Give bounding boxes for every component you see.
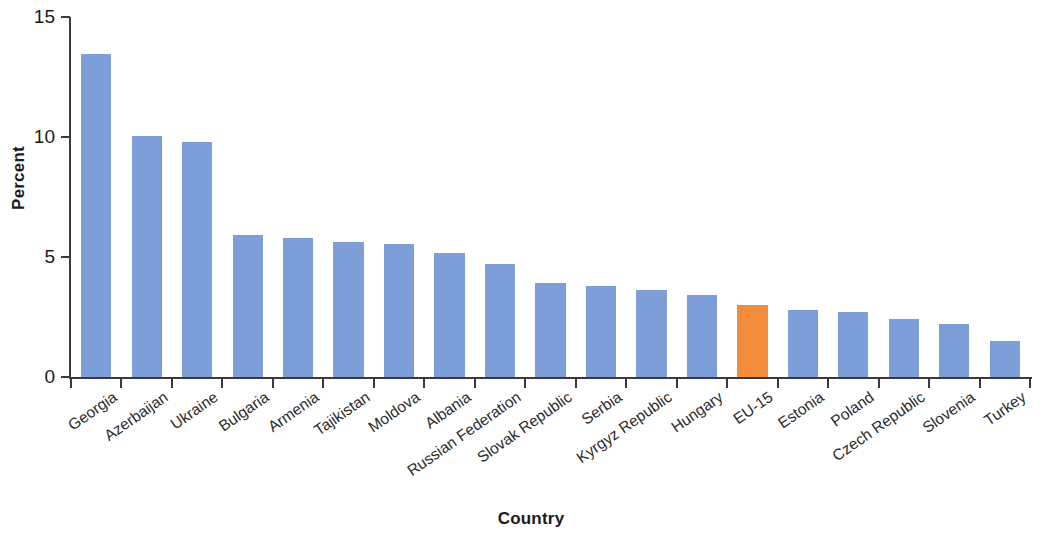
category-label-text: Turkey <box>980 388 1029 430</box>
x-axis-tick <box>120 379 122 388</box>
x-axis-tick <box>423 379 425 388</box>
x-axis-category-label: Hungary <box>668 388 726 436</box>
bar-chart: Percent 051015 GeorgiaAzerbaijanUkraineB… <box>0 0 1062 535</box>
category-label-text: Hungary <box>668 388 726 436</box>
category-label-text: Bulgaria <box>215 388 272 435</box>
x-axis-category-label: Czech Republic <box>829 388 928 465</box>
x-axis-title: Country <box>0 509 1062 529</box>
x-axis-category-label: Turkey <box>980 388 1029 430</box>
bar <box>233 235 263 378</box>
x-axis-tick <box>221 379 223 388</box>
x-axis-tick <box>575 379 577 388</box>
x-axis-tick <box>171 379 173 388</box>
bar <box>687 295 717 378</box>
x-axis-tick <box>373 379 375 388</box>
bar <box>838 312 868 378</box>
bar <box>283 238 313 378</box>
y-axis-tick-label: 0 <box>0 367 55 386</box>
y-axis-line <box>69 17 71 378</box>
x-axis-line <box>69 377 1032 379</box>
x-axis-category-label: Moldova <box>365 388 423 436</box>
x-axis-category-label: Ukraine <box>167 388 221 433</box>
y-axis-title: Percent <box>9 133 29 223</box>
y-axis-tick-label: 10 <box>0 127 55 146</box>
category-label-text: EU-15 <box>730 388 776 428</box>
x-axis-tick <box>322 379 324 388</box>
x-axis-category-label: Tajikistan <box>310 388 373 439</box>
x-axis-tick <box>979 379 981 388</box>
x-axis-tick <box>272 379 274 388</box>
bar <box>81 54 111 378</box>
y-axis-tick-label: 5 <box>0 247 55 266</box>
bar <box>788 310 818 378</box>
bar <box>535 283 565 378</box>
x-axis-tick <box>676 379 678 388</box>
category-label-text: Slovenia <box>920 388 979 437</box>
x-axis-tick <box>827 379 829 388</box>
x-axis-tick <box>777 379 779 388</box>
bar <box>586 286 616 378</box>
x-axis-tick <box>878 379 880 388</box>
x-axis-tick <box>474 379 476 388</box>
category-label-text: Czech Republic <box>829 388 928 465</box>
x-axis-category-label: EU-15 <box>730 388 776 428</box>
bar <box>737 305 767 378</box>
x-axis-tick <box>726 379 728 388</box>
bar <box>384 244 414 378</box>
x-axis-category-label: Bulgaria <box>215 388 272 435</box>
y-axis-tick-label: 15 <box>0 7 55 26</box>
category-label-text: Estonia <box>775 388 828 432</box>
x-axis-category-label: Estonia <box>775 388 828 432</box>
x-axis-tick <box>70 379 72 388</box>
x-axis-tick <box>928 379 930 388</box>
category-label-text: Tajikistan <box>310 388 373 439</box>
y-axis-tick <box>61 256 70 258</box>
category-label-text: Ukraine <box>167 388 221 433</box>
category-label-text: Moldova <box>365 388 423 436</box>
bar <box>333 242 363 378</box>
bar <box>485 264 515 378</box>
x-axis-tick <box>625 379 627 388</box>
y-axis-tick <box>61 136 70 138</box>
bar <box>434 253 464 378</box>
y-axis-tick <box>61 16 70 18</box>
bar <box>182 142 212 378</box>
bar <box>939 324 969 378</box>
bar <box>889 319 919 378</box>
x-axis-tick <box>524 379 526 388</box>
bar <box>990 341 1020 378</box>
x-axis-category-label: Slovenia <box>920 388 979 437</box>
bar <box>636 290 666 378</box>
bar <box>132 136 162 378</box>
x-axis-tick <box>1029 379 1031 388</box>
